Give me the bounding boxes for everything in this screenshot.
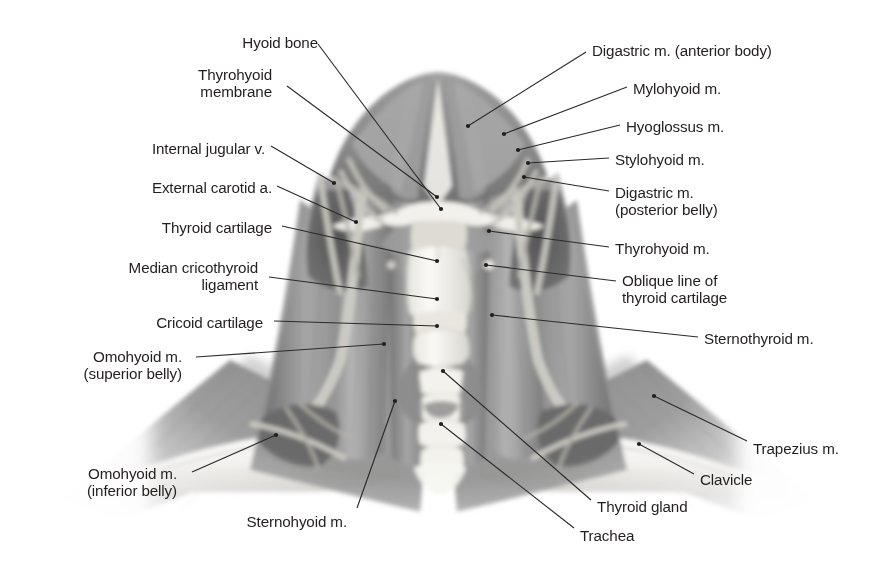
label-digastric-anterior-body: Digastric m. (anterior body) (592, 42, 772, 59)
label-text-line: Median cricothyroid (129, 259, 258, 276)
label-trachea: Trachea (580, 527, 634, 544)
label-oblique-line-thyroid-cartilage: Oblique line ofthyroid cartilage (622, 272, 727, 307)
label-text-line: Oblique line of (622, 272, 727, 289)
label-mylohyoid-m: Mylohyoid m. (633, 80, 721, 97)
label-text-line: Clavicle (700, 471, 752, 488)
leader-sternohyoid-m-dot (393, 399, 397, 403)
label-external-carotid-a: External carotid a. (152, 179, 272, 196)
label-text-line: Stylohyoid m. (615, 151, 705, 168)
leader-digastric-posterior-dot (522, 175, 526, 179)
label-text-line: Thyrohyoid m. (615, 240, 710, 257)
label-stylohyoid-m: Stylohyoid m. (615, 151, 705, 168)
leader-internal-jugular-v-dot (332, 181, 336, 185)
label-internal-jugular-v: Internal jugular v. (152, 140, 265, 157)
label-text-line: Thyroid cartilage (162, 219, 272, 236)
label-omohyoid-superior-belly: Omohyoid m.(superior belly) (83, 348, 182, 383)
leader-sternothyroid-m-dot (490, 313, 494, 317)
leader-trachea-dot (439, 422, 443, 426)
leader-clavicle-dot (637, 442, 641, 446)
leader-mylohyoid-m-dot (502, 132, 506, 136)
leader-hyoglossus-m-dot (516, 148, 520, 152)
label-thyrohyoid-m: Thyrohyoid m. (615, 240, 710, 257)
label-text-line: Internal jugular v. (152, 140, 265, 157)
label-text-line: Hyoid bone (242, 34, 318, 51)
leader-oblique-line-dot (484, 263, 488, 267)
label-thyroid-gland: Thyroid gland (597, 498, 687, 515)
leader-thyrohyoid-m-dot (487, 229, 491, 233)
leader-omohyoid-inferior-dot (274, 433, 278, 437)
label-text-line: (superior belly) (83, 365, 182, 382)
label-thyroid-cartilage: Thyroid cartilage (162, 219, 272, 236)
leader-hyoid-bone-dot (439, 207, 443, 211)
label-digastric-posterior-belly: Digastric m.(posterior belly) (615, 184, 718, 219)
leader-digastric-anterior-dot (466, 124, 470, 128)
label-trapezius-m: Trapezius m. (753, 440, 839, 457)
label-text-line: Hyoglossus m. (626, 118, 724, 135)
label-text-line: Mylohyoid m. (633, 80, 721, 97)
label-text-line: thyroid cartilage (622, 289, 727, 306)
leader-thyroid-cartilage-dot (435, 259, 439, 263)
leader-thyroid-gland-dot (441, 369, 445, 373)
leader-trapezius-m-dot (652, 394, 656, 398)
label-cricoid-cartilage: Cricoid cartilage (156, 314, 263, 331)
label-sternohyoid-m: Sternohyoid m. (247, 513, 347, 530)
label-text-line: External carotid a. (152, 179, 272, 196)
label-text-line: Thyroid gland (597, 498, 687, 515)
label-text-line: Sternothyroid m. (704, 330, 814, 347)
label-thyrohyoid-membrane: Thyrohyoidmembrane (198, 66, 272, 101)
leader-external-carotid-a-dot (354, 220, 358, 224)
label-text-line: Trachea (580, 527, 634, 544)
leader-cricoid-cartilage-dot (435, 324, 439, 328)
label-hyoglossus-m: Hyoglossus m. (626, 118, 724, 135)
label-text-line: Trapezius m. (753, 440, 839, 457)
label-hyoid-bone: Hyoid bone (242, 34, 318, 51)
label-text-line: (posterior belly) (615, 201, 718, 218)
leader-thyrohyoid-membrane-dot (435, 195, 439, 199)
label-text-line: (inferior belly) (87, 482, 177, 499)
label-text-line: Thyrohyoid (198, 66, 272, 83)
label-text-line: Digastric m. (anterior body) (592, 42, 772, 59)
label-median-cricothyroid-ligament: Median cricothyroidligament (129, 259, 258, 294)
label-text-line: Cricoid cartilage (156, 314, 263, 331)
label-text-line: Omohyoid m. (87, 465, 177, 482)
label-omohyoid-inferior-belly: Omohyoid m.(inferior belly) (87, 465, 177, 500)
label-sternothyroid-m: Sternothyroid m. (704, 330, 814, 347)
label-clavicle: Clavicle (700, 471, 752, 488)
leader-stylohyoid-m-dot (526, 161, 530, 165)
label-text-line: Sternohyoid m. (247, 513, 347, 530)
label-text-line: ligament (129, 276, 258, 293)
label-text-line: membrane (198, 83, 272, 100)
label-text-line: Omohyoid m. (83, 348, 182, 365)
label-text-line: Digastric m. (615, 184, 718, 201)
leader-omohyoid-superior-dot (382, 342, 386, 346)
leader-median-cricothyroid-dot (435, 297, 439, 301)
